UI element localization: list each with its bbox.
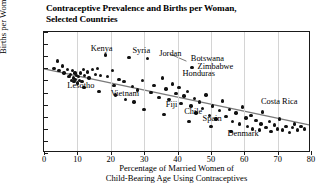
data-point	[273, 123, 276, 126]
country-label: Kenya	[91, 45, 113, 53]
data-point	[296, 128, 299, 131]
chart-title: Contraceptive Prevalence and Births per …	[46, 3, 296, 24]
country-label: Lesotho	[67, 82, 94, 90]
x-axis-title-line-1: Percentage of Married Women of	[119, 163, 234, 173]
data-point	[117, 78, 120, 81]
data-point	[254, 119, 257, 122]
data-point	[303, 127, 306, 130]
y-axis-tick	[44, 117, 48, 118]
y-axis-title: Births per Woman	[0, 0, 8, 54]
country-label: Jordan	[159, 50, 181, 58]
data-point	[224, 115, 227, 118]
data-point	[86, 70, 89, 73]
data-point	[157, 96, 160, 99]
data-point	[269, 130, 272, 133]
y-axis-tick	[44, 56, 48, 57]
y-axis-tick	[44, 32, 48, 33]
country-label: Denmark	[228, 130, 259, 138]
y-axis-tick	[44, 44, 48, 45]
data-point	[149, 91, 152, 94]
y-axis-tick	[44, 141, 48, 142]
y-axis-tick	[44, 93, 48, 94]
plot-area: 01020304050607080012345678910KenyaSyriaJ…	[43, 31, 310, 152]
data-point	[62, 71, 65, 74]
chart-title-line-1: Contraceptive Prevalence and Births per …	[46, 3, 236, 13]
data-point	[179, 102, 182, 105]
data-point	[288, 131, 291, 134]
data-point	[164, 87, 167, 90]
country-label: Vietnam	[111, 90, 139, 98]
data-point	[152, 84, 155, 87]
data-point	[264, 126, 267, 129]
chart-figure: Contraceptive Prevalence and Births per …	[0, 0, 318, 191]
x-axis-title: Percentage of Married Women of Child-Bea…	[43, 163, 310, 183]
data-point	[87, 76, 90, 79]
data-point	[281, 128, 284, 131]
data-point	[221, 99, 224, 102]
country-label: Costa Rica	[261, 98, 298, 106]
data-point	[97, 90, 100, 93]
data-point	[209, 125, 212, 128]
data-point	[182, 94, 185, 97]
data-point	[259, 122, 262, 125]
data-point	[284, 125, 287, 128]
data-point	[142, 108, 145, 111]
data-point	[234, 111, 237, 114]
y-axis-tick	[44, 68, 48, 69]
data-point	[241, 105, 244, 108]
country-label: Syria	[132, 47, 150, 55]
x-gridline	[211, 32, 212, 151]
data-point	[238, 122, 241, 125]
data-point	[211, 104, 214, 107]
y-axis-tick	[44, 105, 48, 106]
data-point	[161, 76, 164, 79]
data-point	[261, 110, 264, 113]
country-label: Chile	[184, 108, 202, 116]
x-gridline	[278, 32, 279, 151]
data-point	[174, 92, 177, 95]
data-point	[293, 122, 296, 125]
x-gridline	[77, 32, 78, 151]
data-point	[198, 100, 201, 103]
data-point	[132, 100, 135, 103]
y-axis-tick	[44, 153, 48, 154]
y-axis-tick	[44, 129, 48, 130]
country-label: Honduras	[183, 70, 216, 78]
data-point	[244, 116, 247, 119]
data-point	[127, 56, 130, 59]
data-point	[96, 67, 99, 70]
data-point	[52, 67, 55, 70]
data-point	[276, 127, 279, 130]
country-label: Spain	[203, 115, 222, 123]
data-point	[162, 113, 165, 116]
data-point	[278, 117, 281, 120]
data-point	[61, 64, 64, 67]
x-axis-title-line-2: Child-Bearing Age Using Contraceptives	[106, 173, 248, 183]
chart-title-line-2: Selected Countries	[46, 14, 117, 24]
y-axis-tick	[44, 80, 48, 81]
data-point	[112, 84, 115, 87]
data-point	[56, 59, 59, 62]
data-point	[187, 120, 190, 123]
data-point	[249, 114, 252, 117]
data-point	[204, 93, 207, 96]
country-label: Fiji	[166, 101, 178, 109]
data-point	[228, 108, 231, 111]
data-point	[171, 82, 174, 85]
